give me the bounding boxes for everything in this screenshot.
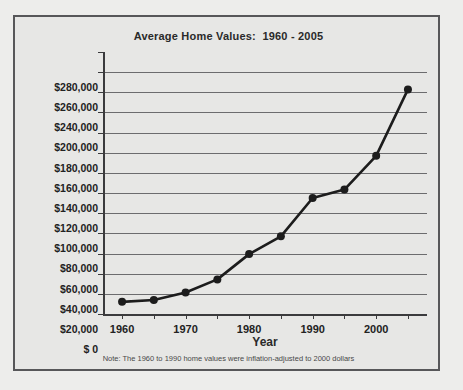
data-point-marker [118,298,126,306]
y-axis-tick-label: $20,000 [60,323,98,335]
y-axis-tick-label: $180,000 [54,162,98,174]
x-axis-tick-label: 1960 [110,323,134,335]
y-axis-tick-label: $100,000 [54,242,98,254]
data-point-marker [404,85,412,93]
y-axis-tick-label: $160,000 [54,182,98,194]
series-line [122,89,408,301]
y-axis-tick-label: $200,000 [54,141,98,153]
x-axis-title: Year [103,335,427,349]
chart-title: Average Home Values: 1960 - 2005 [15,30,442,42]
y-axis-tick-label: $60,000 [60,283,98,295]
data-point-marker [372,152,380,160]
y-axis-tick-label: $120,000 [54,222,98,234]
data-point-marker [309,194,317,202]
chart-footnote: Note: The 1960 to 1990 home values were … [15,354,442,363]
data-point-marker [245,250,253,258]
chart-figure-frame: Average Home Values: 1960 - 2005 $280,00… [13,15,440,371]
y-axis-tick-label: $140,000 [54,202,98,214]
x-axis-tick-label: 1970 [173,323,197,335]
series-markers [118,85,412,305]
y-axis-tick-label: $260,000 [54,101,98,113]
data-point-marker [277,232,285,240]
chart-page: Average Home Values: 1960 - 2005 $280,00… [0,0,463,390]
data-point-marker [182,288,190,296]
home-values-series [103,52,427,315]
data-point-marker [213,275,221,283]
x-axis-tick-label: 2000 [364,323,388,335]
y-axis-tick-label: $40,000 [60,303,98,315]
y-axis-labels: $280,000$260,000$240,000$200,000$180,000… [15,52,98,315]
plot-area: 19601970198019902000 [103,52,427,314]
data-point-marker [150,296,158,304]
y-axis-tick-label: $280,000 [54,81,98,93]
x-axis-tick-label: 1980 [237,323,261,335]
x-axis-tick-label: 1990 [300,323,324,335]
y-axis-tick-label: $80,000 [60,262,98,274]
data-point-marker [340,186,348,194]
y-axis-tick-label: $240,000 [54,121,98,133]
